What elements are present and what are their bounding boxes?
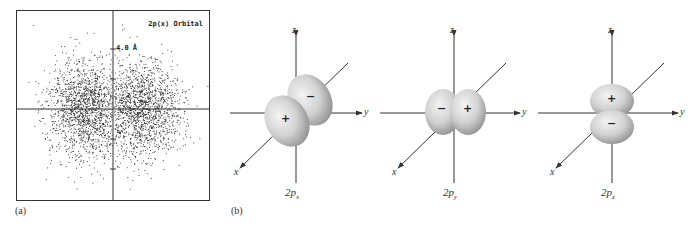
lobe-sign: + (281, 112, 290, 125)
panel-a-label: (a) (15, 205, 26, 216)
z-axis-label: z (450, 24, 454, 35)
z-axis-label: z (608, 24, 612, 35)
lobe-sign: + (463, 102, 472, 115)
orbital-2py: − + z y x 2py (388, 28, 528, 178)
lobe-sign: − (607, 117, 616, 130)
lobe-sign: − (437, 102, 446, 115)
orbital-caption: 2pz (601, 186, 615, 201)
y-axis-label: y (364, 106, 368, 117)
x-axis-label: x (550, 166, 554, 177)
y-axis-label: y (680, 106, 684, 117)
lobe-sign: − (306, 90, 315, 103)
orbital-caption: 2py (443, 186, 457, 201)
scale-label: 4.0 Å (116, 44, 137, 52)
y-axis-label: y (522, 106, 526, 117)
x-axis-label: x (392, 166, 396, 177)
orbital-caption: 2px (285, 186, 299, 201)
x-axis-label: x (234, 166, 238, 177)
panel-b-label: (b) (231, 205, 243, 216)
orbital-2px: + − z y x 2px (230, 28, 370, 178)
orbital-2pz: + − z y x 2pz (546, 28, 686, 178)
lobe-sign: + (607, 92, 616, 105)
plot-title: 2p(x) Orbital (148, 20, 203, 28)
dot-density-canvas (17, 11, 209, 200)
z-axis-label: z (292, 24, 296, 35)
dot-density-plot: 2p(x) Orbital 4.0 Å (16, 10, 210, 201)
